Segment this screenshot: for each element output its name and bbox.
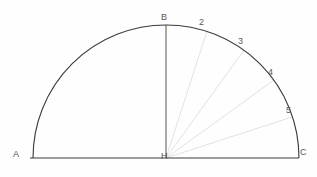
ray-to-point-4 <box>166 80 274 158</box>
vertex-label-h: H <box>161 152 168 161</box>
ray-to-point-5 <box>166 117 292 158</box>
division-label-2: 2 <box>199 18 204 27</box>
vertex-label-c: C <box>300 148 307 157</box>
diagram-canvas: A B C H 2 3 4 5 <box>0 0 317 177</box>
faint-ray-group <box>166 31 292 158</box>
division-label-3: 3 <box>238 37 243 46</box>
ray-to-point-3 <box>166 50 244 158</box>
division-label-5: 5 <box>286 106 291 115</box>
ray-to-point-2 <box>166 31 207 158</box>
division-label-4: 4 <box>268 68 273 77</box>
vertex-label-a: A <box>13 150 19 159</box>
semicircle-figure <box>0 0 317 177</box>
vertex-label-b: B <box>161 13 167 22</box>
